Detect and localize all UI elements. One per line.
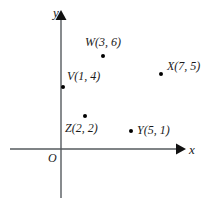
point-label-z: Z(2, 2)	[65, 122, 98, 134]
point-label-x: X(7, 5)	[167, 60, 200, 72]
point-dot-y	[129, 129, 133, 133]
coordinate-plane-figure: y x O W(3, 6) X(7, 5) V(1, 4) Z(2, 2) Y(…	[0, 0, 213, 204]
point-label-v: V(1, 4)	[67, 70, 100, 82]
x-axis-label: x	[189, 143, 195, 156]
point-label-y: Y(5, 1)	[137, 124, 170, 136]
point-label-w: W(3, 6)	[85, 36, 121, 48]
point-dot-z	[83, 114, 87, 118]
point-dot-v	[61, 85, 65, 89]
point-dot-w	[101, 54, 105, 58]
origin-label: O	[48, 152, 57, 164]
point-dot-x	[159, 72, 163, 76]
x-axis-arrow-icon	[176, 144, 186, 155]
y-axis-label: y	[53, 6, 59, 19]
axes-drawing	[0, 0, 213, 204]
